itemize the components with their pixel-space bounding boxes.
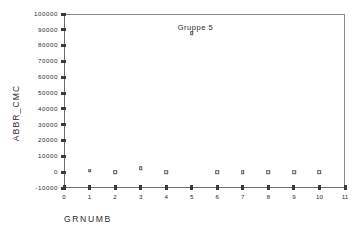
x-tick-label: 1	[82, 194, 98, 200]
y-tick-label: 30000	[38, 122, 58, 128]
x-tick-mark	[241, 185, 244, 190]
y-tick-mark	[61, 123, 66, 126]
x-tick-mark	[190, 185, 193, 190]
y-tick-mark	[61, 107, 66, 110]
y-tick-label: 70000	[38, 58, 58, 64]
x-tick-label: 4	[158, 194, 174, 200]
data-point-marker	[164, 170, 168, 174]
y-tick-label: 90000	[38, 27, 58, 33]
data-point-marker	[318, 170, 322, 174]
y-tick-mark	[61, 171, 66, 174]
data-point-marker	[215, 170, 219, 174]
y-tick-mark	[61, 13, 66, 16]
y-tick-mark	[61, 155, 66, 158]
y-axis-title: ABBR_CMC	[11, 61, 21, 165]
y-tick-label: 80000	[38, 42, 58, 48]
x-tick-label: 5	[184, 194, 200, 200]
data-point-marker	[241, 170, 245, 174]
x-tick-label: 10	[311, 194, 327, 200]
data-point-marker	[292, 170, 296, 174]
data-point-marker	[267, 170, 271, 174]
x-tick-label: 8	[260, 194, 276, 200]
y-tick-label: -10000	[35, 185, 58, 191]
data-point-marker	[139, 166, 143, 170]
x-tick-label: 11	[337, 194, 353, 200]
y-tick-mark	[61, 139, 66, 142]
y-axis-line	[64, 14, 65, 188]
x-tick-label: 6	[209, 194, 225, 200]
y-tick-mark	[61, 92, 66, 95]
y-tick-label: 0	[54, 169, 58, 175]
y-tick-label: 20000	[38, 137, 58, 143]
y-tick-mark	[61, 44, 66, 47]
scatter-chart: -100000100002000030000400005000060000700…	[0, 0, 359, 242]
chart-annotation: Gruppe 5	[178, 24, 214, 32]
x-tick-mark	[292, 185, 295, 190]
y-tick-label: 40000	[38, 106, 58, 112]
x-tick-label: 2	[107, 194, 123, 200]
x-tick-mark	[267, 185, 270, 190]
x-tick-label: 0	[56, 194, 72, 200]
y-tick-mark	[61, 60, 66, 63]
x-tick-label: 9	[286, 194, 302, 200]
y-tick-label: 10000	[38, 153, 58, 159]
x-tick-mark	[88, 185, 91, 190]
y-tick-label: 50000	[38, 90, 58, 96]
data-point-marker	[113, 170, 117, 174]
y-tick-mark	[61, 28, 66, 31]
data-point-marker	[88, 169, 92, 173]
x-tick-label: 3	[133, 194, 149, 200]
x-tick-mark	[344, 185, 347, 190]
x-tick-mark	[318, 185, 321, 190]
y-tick-label: 100000	[34, 11, 58, 17]
x-tick-mark	[63, 185, 66, 190]
x-axis-title: GRNUMB	[64, 214, 112, 224]
x-tick-mark	[139, 185, 142, 190]
y-tick-mark	[61, 76, 66, 79]
x-tick-mark	[114, 185, 117, 190]
x-tick-mark	[165, 185, 168, 190]
plot-area-frame	[64, 14, 345, 188]
x-tick-label: 7	[235, 194, 251, 200]
x-axis-line	[64, 187, 345, 188]
x-tick-mark	[216, 185, 219, 190]
y-tick-label: 60000	[38, 74, 58, 80]
